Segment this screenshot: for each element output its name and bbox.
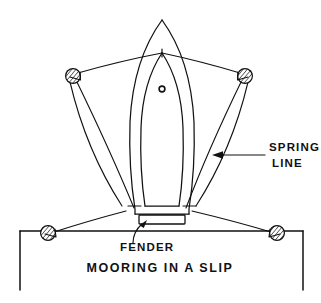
piling-lower-right	[269, 226, 284, 241]
spring-line-label-row2: LINE	[272, 157, 303, 169]
figure-caption: MOORING IN A SLIP	[86, 261, 233, 275]
piling-upper-right	[238, 69, 253, 84]
spring-line-label-row1: SPRING	[269, 141, 320, 153]
piling-lower-left	[41, 226, 56, 241]
fender-label: FENDER	[120, 241, 174, 253]
mooring-diagram: SPRING LINE FENDER	[0, 0, 321, 303]
mooring-in-a-slip-drawing: SPRING LINE FENDER	[0, 0, 321, 303]
piling-upper-left	[66, 69, 81, 84]
